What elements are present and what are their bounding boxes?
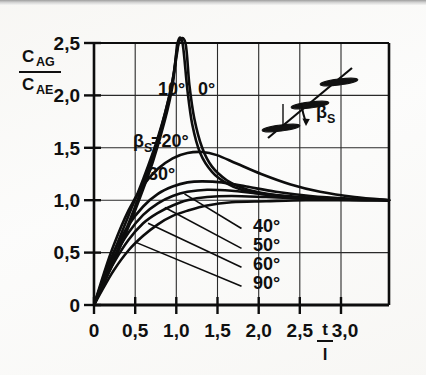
- curve-label-10deg: 10°: [158, 79, 185, 99]
- curve-label-90deg: 90°: [253, 273, 280, 293]
- curve-label-30deg: 30°: [148, 164, 175, 184]
- curve-label-40deg: 40°: [253, 216, 280, 236]
- y-axis-numerator: C: [22, 47, 34, 66]
- x-axis-numerator: t: [322, 320, 328, 339]
- x-tick-label: 0: [89, 320, 100, 341]
- blade-cascade-sketch: β S: [262, 68, 358, 138]
- leader-line-60-deg: [148, 223, 241, 267]
- x-tick-label: 1,0: [163, 320, 189, 341]
- y-axis-denominator-subscript: AE: [36, 83, 53, 97]
- curve-label-0deg: 0°: [198, 79, 215, 99]
- curve-label-20deg-value: =20°: [151, 131, 189, 151]
- cascade-correction-plot: 2,5 2,0 1,5 1,0 0,5 0 0 0,5 1,0 1,5 2,0 …: [0, 0, 426, 375]
- y-tick-label: 0: [69, 295, 80, 316]
- y-tick-label: 1,0: [54, 190, 80, 211]
- curve-label-20deg: β S =20°: [133, 131, 189, 155]
- y-tick-labels: 2,5 2,0 1,5 1,0 0,5 0: [54, 33, 81, 316]
- leader-line-90-deg: [135, 242, 241, 286]
- inset-beta-subscript: S: [327, 112, 335, 126]
- x-tick-labels: 0 0,5 1,0 1,5 2,0 2,5 3,0: [89, 320, 359, 341]
- curve-label-50deg: 50°: [253, 235, 280, 255]
- curve-10-deg: [94, 37, 389, 305]
- y-axis-denominator: C: [22, 75, 34, 94]
- x-axis-denominator: l: [323, 345, 328, 364]
- x-tick-label: 1,5: [204, 320, 231, 341]
- x-tick-label: 2,5: [287, 320, 314, 341]
- x-tick-label: 3,0: [332, 320, 358, 341]
- y-tick-label: 2,0: [54, 85, 80, 106]
- x-axis-label: t l: [317, 320, 333, 364]
- data-curves: [94, 37, 389, 305]
- y-tick-label: 0,5: [54, 242, 81, 263]
- y-axis-numerator-subscript: AG: [36, 55, 55, 69]
- y-tick-label: 1,5: [54, 138, 81, 159]
- curve-label-60deg: 60°: [253, 254, 280, 274]
- beta-symbol: β: [133, 131, 144, 151]
- y-tick-label: 2,5: [54, 33, 81, 54]
- angle-arrow-head: [302, 119, 309, 127]
- x-tick-label: 2,0: [245, 320, 271, 341]
- x-tick-label: 0,5: [122, 320, 149, 341]
- figure-canvas: 2,5 2,0 1,5 1,0 0,5 0 0 0,5 1,0 1,5 2,0 …: [0, 0, 426, 375]
- curve-50-deg: [94, 190, 389, 305]
- curve-labels: 10° 0° β S =20° 30° 40° 50° 60° 90°: [133, 79, 280, 293]
- inset-beta-symbol: β: [316, 102, 327, 122]
